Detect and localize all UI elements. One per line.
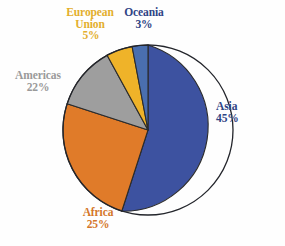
slice-label-asia-name: Asia	[216, 101, 239, 113]
slice-label-africa-percent: 25%	[68, 219, 128, 231]
slice-label-asia-percent: 45%	[216, 113, 239, 125]
slice-label-africa-name: Africa	[68, 207, 128, 219]
slice-label-americas-percent: 22%	[5, 82, 71, 94]
slice-label-european-union: European Union 5%	[62, 7, 120, 42]
pie-chart-figure: Asia 45% Africa 25% Americas 22% Europea…	[0, 0, 285, 246]
pie-chart-graphic	[0, 0, 285, 246]
slice-label-european-union-percent: 5%	[62, 30, 120, 42]
slice-label-oceania-percent: 3%	[116, 19, 172, 31]
slice-label-americas: Americas 22%	[5, 70, 71, 93]
slice-label-americas-name: Americas	[5, 70, 71, 82]
slice-label-africa: Africa 25%	[68, 207, 128, 230]
slice-label-oceania-name: Oceania	[116, 7, 172, 19]
slice-label-european-union-name: European Union	[62, 7, 118, 30]
slice-label-oceania: Oceania 3%	[116, 7, 172, 30]
slice-label-asia: Asia 45%	[216, 101, 239, 124]
